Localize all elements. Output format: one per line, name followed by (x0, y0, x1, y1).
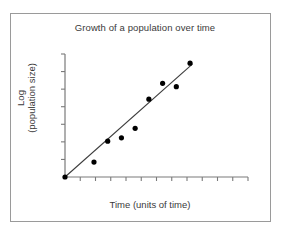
data-point (187, 61, 192, 66)
data-point (119, 135, 124, 140)
data-point (160, 81, 165, 86)
y-axis (61, 54, 65, 177)
trend-line (65, 64, 192, 177)
data-point (105, 139, 110, 144)
data-point (91, 159, 96, 164)
scatter-plot (0, 0, 282, 234)
data-point (133, 126, 138, 131)
figure-container: Growth of a population over time Log (po… (0, 0, 282, 234)
data-point (174, 84, 179, 89)
data-point (146, 97, 151, 102)
x-axis (65, 177, 248, 181)
data-point (62, 174, 67, 179)
x-axis-ticks (80, 177, 248, 181)
trend-line-segment (65, 64, 192, 177)
